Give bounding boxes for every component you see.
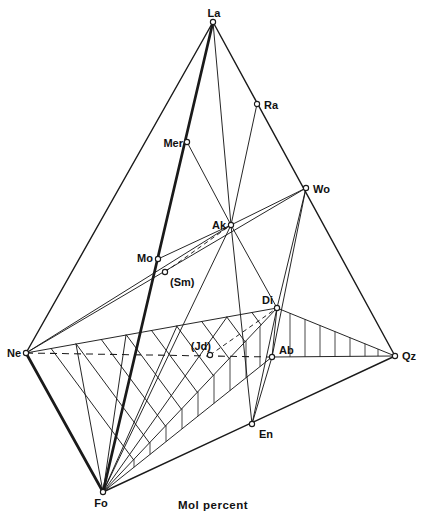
tetrahedron-phase-diagram: LaRaMerWoAkMo(Sm)Di(Jd)NeAbQzEnFoMol per… [0,0,422,516]
point-label-di: Di [262,294,273,306]
point-marker-en [249,421,254,426]
point-marker-la [210,19,215,24]
edge-ab-qz [272,356,395,357]
point-label-jd: (Jd) [191,340,212,352]
point-label-ab: Ab [279,344,294,356]
phase-diagram-figure: LaRaMerWoAkMo(Sm)Di(Jd)NeAbQzEnFoMol per… [0,0,422,516]
join-ak-en [231,225,252,424]
hatch-fan-line-2 [103,326,177,492]
join-di-ab [272,308,277,357]
point-label-ne: Ne [7,347,21,359]
point-marker-ab [269,354,274,359]
point-marker-qz [392,353,397,358]
point-marker-fo [100,489,105,494]
edge-la-ne [26,22,213,353]
edge-ne-ab-hidden [26,353,272,357]
point-marker-ra [254,101,259,106]
point-label-wo: Wo [313,183,330,195]
point-marker-wo [303,185,308,190]
point-label-mo: Mo [137,252,153,264]
join-di-qz [277,308,395,356]
join-di-en [252,308,277,424]
point-marker-ak [228,222,233,227]
point-label-sm: (Sm) [170,276,195,288]
point-marker-mer [184,139,189,144]
join-wo-ab [272,188,306,357]
join-wo-di [277,188,306,308]
point-label-fo: Fo [94,497,108,509]
join-ak-wo [231,188,306,225]
hatch-chord-8 [252,313,261,325]
point-marker-ne [23,350,28,355]
point-marker-jd [207,352,212,357]
point-label-la: La [208,7,222,19]
point-marker-mo [155,256,160,261]
caption-mol-percent: Mol percent [178,499,248,511]
point-label-en: En [259,428,273,440]
point-marker-sm [162,269,167,274]
edge-ne-fo [26,353,103,492]
point-label-mer: Mer [163,137,183,149]
point-marker-di [274,305,279,310]
point-label-qz: Qz [402,350,417,362]
join-ra-ak [231,104,257,225]
point-label-ra: Ra [264,99,279,111]
join-la-ak [213,22,231,225]
join-di-fo [103,308,277,492]
point-label-ak: Ak [212,219,227,231]
join-sm-ak-metastable [165,225,231,272]
